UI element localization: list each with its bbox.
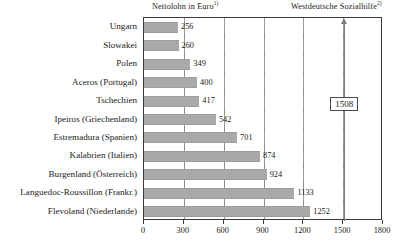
bar: [144, 169, 267, 180]
header-nettolohn-text: Nettolohn in Euro: [152, 2, 214, 11]
gridline-dash: [184, 89, 185, 94]
bar-value-label: 256: [181, 22, 193, 32]
gridline-dash: [184, 144, 185, 149]
gridline-dash: [303, 163, 304, 168]
bar: [144, 40, 179, 51]
x-tick: [223, 220, 224, 224]
category-label: Slowakei: [0, 40, 137, 50]
bar-value-label: 400: [200, 78, 212, 88]
reference-value-box: 1508: [330, 97, 358, 111]
x-tick-label: 600: [216, 226, 228, 235]
bar-value-label: 701: [240, 133, 252, 143]
gridline-dash: [184, 163, 185, 168]
category-label: Ipeiros (Griechenland): [0, 114, 137, 124]
bar-value-label: 349: [193, 59, 205, 69]
gridline-dash: [224, 108, 225, 113]
bar: [144, 96, 199, 107]
gridline-dash: [224, 52, 225, 57]
bar: [144, 132, 237, 143]
header-nettolohn-footnote: 1): [214, 0, 219, 6]
category-label: Burgenland (Österreich): [0, 169, 137, 179]
bar-value-label: 924: [270, 170, 282, 180]
gridline-dash: [303, 89, 304, 94]
gridline-dash: [224, 34, 225, 39]
gridline-dash: [264, 163, 265, 168]
x-tick-label: 0: [141, 226, 145, 235]
gridline-dash: [303, 181, 304, 186]
gridline-dash: [264, 144, 265, 149]
category-label: Aceros (Portugal): [0, 77, 137, 87]
x-tick: [263, 220, 264, 224]
bar: [144, 59, 190, 70]
gridline-dash: [184, 200, 185, 205]
category-label: Tschechien: [0, 95, 137, 105]
x-tick-label: 300: [177, 226, 189, 235]
x-tick: [183, 220, 184, 224]
bar: [144, 188, 294, 199]
category-axis-labels: UngarnSlowakeiPolenAceros (Portugal)Tsch…: [0, 17, 140, 220]
gridline-dash: [264, 126, 265, 131]
bar-value-label: 417: [202, 96, 214, 106]
bar-value-label: 542: [219, 115, 231, 125]
bar: [144, 114, 216, 125]
header-sozialhilfe: Westdeutsche Sozialhilfe2): [291, 2, 382, 11]
header-sozialhilfe-text: Westdeutsche Sozialhilfe: [291, 2, 377, 11]
gridline-dash: [224, 71, 225, 76]
category-label: Ungarn: [0, 21, 137, 31]
x-tick-label: 1200: [294, 226, 311, 235]
x-tick: [302, 220, 303, 224]
gridline-dash: [264, 200, 265, 205]
gridline-dash: [303, 144, 304, 149]
header-nettolohn: Nettolohn in Euro1): [152, 2, 218, 11]
gridline-dash: [224, 89, 225, 94]
bar: [144, 151, 260, 162]
gridline-dash: [264, 108, 265, 113]
category-label: Kalabrien (Italien): [0, 150, 137, 160]
header-sozialhilfe-footnote: 2): [377, 0, 382, 6]
gridline-dash: [303, 52, 304, 57]
category-label: Estremadura (Spanien): [0, 132, 137, 142]
x-tick: [382, 220, 383, 224]
gridline-dash: [264, 34, 265, 39]
gridline-dash: [184, 181, 185, 186]
gridline-dash: [184, 52, 185, 57]
bar-value-label: 874: [263, 151, 275, 161]
gridline-dash: [184, 71, 185, 76]
bar: [144, 22, 178, 33]
gridline-dash: [224, 200, 225, 205]
plot-inner: 256260349400417542701874924113312521508: [144, 18, 381, 219]
gridline-dash: [184, 126, 185, 131]
gridline-dash: [264, 71, 265, 76]
x-tick: [143, 220, 144, 224]
reference-arrow-line: [344, 23, 345, 221]
gridline-dash: [303, 71, 304, 76]
plot-area: 256260349400417542701874924113312521508: [143, 17, 382, 220]
bar-value-label: 260: [182, 41, 194, 51]
x-tick-label: 1500: [334, 226, 351, 235]
gridline-dash: [303, 108, 304, 113]
bar: [144, 206, 310, 217]
bar: [144, 77, 197, 88]
x-axis: 0300600900120015001800: [143, 220, 382, 247]
gridline-dash: [264, 181, 265, 186]
gridline-dash: [303, 200, 304, 205]
gridline-dash: [264, 52, 265, 57]
bar-value-label: 1133: [297, 188, 313, 198]
gridline-dash: [303, 34, 304, 39]
gridline-dash: [184, 34, 185, 39]
gridline-dash: [224, 163, 225, 168]
gridline-dash: [264, 89, 265, 94]
x-tick-label: 900: [256, 226, 268, 235]
category-label: Polen: [0, 58, 137, 68]
gridline-dash: [303, 126, 304, 131]
category-label: Flevoland (Niederlande): [0, 206, 137, 216]
x-tick-label: 1800: [374, 226, 391, 235]
category-label: Languedoc-Roussillon (Frankr.): [0, 187, 137, 197]
reference-arrow-head: [341, 18, 347, 24]
gridline-dash: [224, 181, 225, 186]
gridline-dash: [224, 126, 225, 131]
chart-figure: Nettolohn in Euro1) Westdeutsche Sozialh…: [0, 0, 395, 247]
bar-value-label: 1252: [313, 207, 330, 217]
gridline-dash: [184, 108, 185, 113]
gridline-dash: [224, 144, 225, 149]
